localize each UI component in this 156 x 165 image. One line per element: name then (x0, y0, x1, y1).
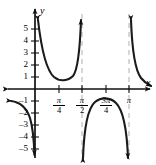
xtick-3pi-over-4-denominator: 4 (95, 106, 117, 115)
xtick-pi-over-2-denominator: 2 (71, 106, 93, 115)
y-axis-label: y (40, 6, 44, 16)
xtick-pi-over-4-numerator: π (48, 96, 70, 105)
xtick-label-pi: π (118, 96, 140, 105)
xtick-label-3pi-over-4: 3π 4 (95, 96, 117, 114)
ytick-label-2: 2 (12, 60, 28, 69)
xtick-pi-over-2-numerator: π (71, 96, 93, 105)
ytick-label-neg-4: –4 (12, 132, 28, 141)
ytick-label-5: 5 (12, 24, 28, 33)
xtick-pi-over-4-denominator: 4 (48, 106, 70, 115)
ytick-label-neg-3: –3 (12, 120, 28, 129)
xtick-3pi-over-4-numerator: 3π (95, 96, 117, 105)
xtick-label-pi-over-2: π 2 (71, 96, 93, 114)
xtick-label-pi-over-4: π 4 (48, 96, 70, 114)
ytick-label-neg-2: –2 (12, 108, 28, 117)
curve-branch-first (38, 20, 81, 80)
graph-figure: y x 5 4 3 2 1 –1 –2 –3 –4 –5 π 4 π 2 3π … (0, 0, 156, 165)
ytick-label-4: 4 (12, 36, 28, 45)
ytick-label-neg-1: –1 (12, 96, 28, 105)
ytick-label-1: 1 (12, 72, 28, 81)
x-axis-label: x (146, 78, 150, 88)
xtick-pi-symbol: π (118, 96, 140, 105)
ytick-label-neg-5: –5 (12, 144, 28, 153)
ytick-label-3: 3 (12, 48, 28, 57)
